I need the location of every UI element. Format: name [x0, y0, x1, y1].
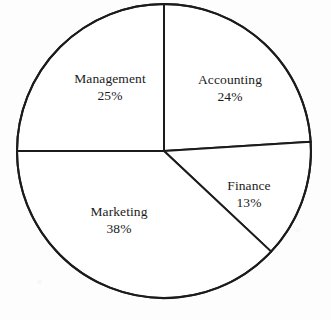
slice-label-finance: Finance 13%: [227, 177, 270, 212]
pie-slices-group: [17, 4, 311, 298]
slice-label-accounting-percent: 24%: [198, 88, 262, 105]
slice-label-marketing-percent: 38%: [90, 220, 147, 237]
pie-chart-figure: Accounting 24% Finance 13% Marketing 38%…: [0, 0, 331, 320]
slice-label-management-percent: 25%: [74, 87, 145, 104]
slice-label-management: Management 25%: [74, 70, 145, 105]
slice-label-marketing-name: Marketing: [90, 203, 147, 220]
slice-label-accounting: Accounting 24%: [198, 71, 262, 106]
slice-label-marketing: Marketing 38%: [90, 203, 147, 238]
slice-label-accounting-name: Accounting: [198, 71, 262, 88]
pie-chart-canvas: [0, 0, 331, 320]
slice-label-finance-name: Finance: [227, 177, 270, 194]
slice-label-finance-percent: 13%: [227, 194, 270, 211]
slice-label-management-name: Management: [74, 70, 145, 87]
